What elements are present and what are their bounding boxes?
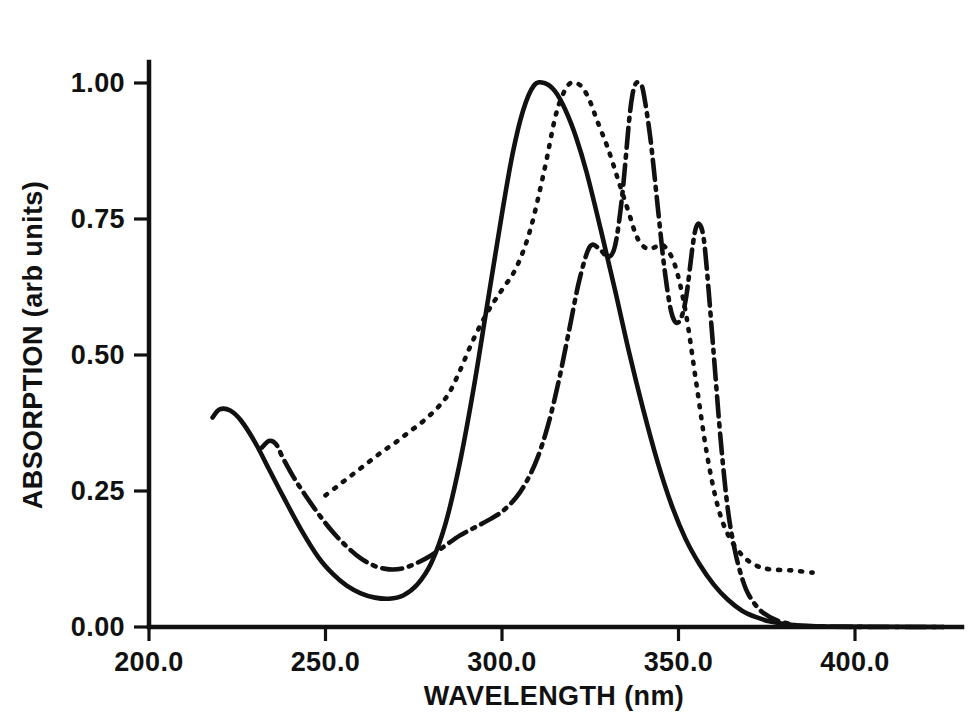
x-axis-title: WAVELENGTH (nm): [424, 681, 684, 711]
data-series-group: [213, 82, 944, 627]
series-dash-dot-curve: [262, 82, 943, 627]
y-axis-title: ABSORPTION (arb units): [18, 181, 48, 509]
y-tick-label-0.25: 0.25: [71, 476, 125, 506]
x-tick-label-350.0: 350.0: [644, 647, 714, 677]
x-tick-label-200.0: 200.0: [114, 647, 184, 677]
x-tick-label-250.0: 250.0: [291, 647, 361, 677]
figure-root: 200.0250.0300.0350.0400.0 0.000.250.500.…: [0, 0, 979, 727]
absorption-spectra-chart: 200.0250.0300.0350.0400.0 0.000.250.500.…: [0, 0, 979, 727]
x-axis-tick-labels: 200.0250.0300.0350.0400.0: [114, 647, 890, 677]
axes-group: [149, 62, 962, 627]
y-tick-label-0.75: 0.75: [71, 204, 125, 234]
y-tick-label-1.00: 1.00: [71, 68, 125, 98]
y-tick-label-0.50: 0.50: [71, 340, 125, 370]
x-tick-label-300.0: 300.0: [467, 647, 537, 677]
y-axis-tick-labels: 0.000.250.500.751.00: [71, 68, 125, 642]
x-tick-label-400.0: 400.0: [820, 647, 890, 677]
series-solid-curve: [213, 82, 944, 627]
y-tick-label-0.00: 0.00: [71, 612, 125, 642]
